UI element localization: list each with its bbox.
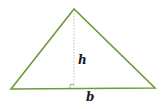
triangle (11, 9, 155, 89)
base-label: b (86, 90, 94, 104)
right-angle-marker (70, 85, 74, 89)
triangle-diagram: h b (0, 0, 167, 109)
height-label: h (78, 53, 87, 67)
